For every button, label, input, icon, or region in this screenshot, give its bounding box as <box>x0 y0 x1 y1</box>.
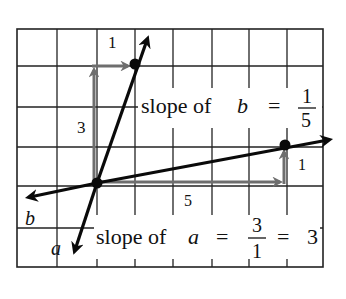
slope-diagram: 1 3 5 1 b a slope of b = 1 5 slope of a … <box>0 0 346 299</box>
slope-a-result: 3 <box>307 224 318 249</box>
line-a-lower <box>75 183 97 250</box>
slope-a-prefix: slope of <box>96 224 172 249</box>
point-on-b <box>280 140 291 151</box>
a-rise-label: 3 <box>77 118 86 137</box>
line-a-name-label: a <box>51 237 61 259</box>
slope-a-denominator: 1 <box>252 240 262 262</box>
intersection-point <box>92 178 103 189</box>
slope-a-variable: a <box>188 224 199 249</box>
slope-b-prefix: slope of <box>141 93 217 118</box>
slope-b-variable: b <box>237 93 248 118</box>
slope-b-equals: = <box>268 93 280 118</box>
point-on-a <box>130 59 141 70</box>
slope-b-denominator: 5 <box>301 109 311 131</box>
line-b-name-label: b <box>25 207 35 229</box>
slope-b-numerator: 1 <box>302 85 312 107</box>
b-run-label: 5 <box>184 192 192 209</box>
slope-a-numerator: 3 <box>252 214 262 236</box>
line-b-left <box>30 183 97 197</box>
b-rise-label: 1 <box>298 156 306 173</box>
a-run-label: 1 <box>108 33 117 52</box>
slope-a-equals: = <box>216 224 228 249</box>
slope-a-result-equals: = <box>277 224 289 249</box>
